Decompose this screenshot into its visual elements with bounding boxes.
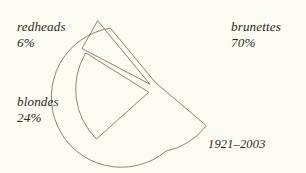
pie-chart-figure: redheads 6% blondes 24% brunettes 70% 19… [0,0,306,173]
pie-slice-blondes [76,53,149,139]
pie-slice-brunettes [51,28,206,167]
pie-label-redheads-name: redheads [17,19,66,35]
pie-label-brunettes-percent: 70% [231,35,281,51]
date-range-annotation: 1921–2003 [208,137,266,152]
pie-label-blondes-name: blondes [17,94,59,110]
pie-label-redheads-percent: 6% [17,35,66,51]
pie-slice-redheads [82,21,150,84]
pie-label-redheads: redheads 6% [17,19,66,50]
pie-label-blondes: blondes 24% [17,94,59,125]
pie-label-brunettes: brunettes 70% [231,19,281,50]
pie-label-brunettes-name: brunettes [231,19,281,35]
pie-label-blondes-percent: 24% [17,110,59,126]
